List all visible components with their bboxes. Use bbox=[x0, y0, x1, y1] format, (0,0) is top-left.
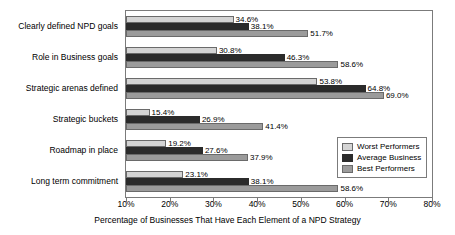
bar-row: 46.3% bbox=[126, 54, 432, 61]
category-label: Clearly defined NPD goals bbox=[0, 21, 118, 31]
bar bbox=[126, 116, 200, 123]
npd-strategy-bar-chart: Clearly defined NPD goalsRole in Busines… bbox=[0, 0, 455, 235]
bar-row: 41.4% bbox=[126, 123, 432, 130]
bar-group: 30.8%46.3%58.6% bbox=[126, 42, 432, 73]
bar-value-label: 37.9% bbox=[250, 153, 273, 162]
x-tick-mark bbox=[257, 198, 258, 202]
bar-value-label: 58.6% bbox=[340, 184, 363, 193]
category-label: Roadmap in place bbox=[0, 145, 118, 155]
bar-value-label: 69.0% bbox=[386, 91, 409, 100]
legend-label-average: Average Business bbox=[357, 153, 421, 162]
bar bbox=[126, 92, 384, 99]
bar-row: 34.6% bbox=[126, 16, 432, 23]
x-tick-mark bbox=[432, 198, 433, 202]
bar-row: 30.8% bbox=[126, 47, 432, 54]
category-axis-labels: Clearly defined NPD goalsRole in Busines… bbox=[0, 10, 122, 198]
x-tick-mark bbox=[301, 198, 302, 202]
bar-group: 34.6%38.1%51.7% bbox=[126, 11, 432, 42]
legend-swatch-best-icon bbox=[342, 165, 353, 173]
legend-item-average: Average Business bbox=[342, 152, 421, 163]
bar bbox=[126, 78, 317, 85]
bar bbox=[126, 140, 166, 147]
legend-item-best: Best Performers bbox=[342, 163, 421, 174]
category-label: Strategic arenas defined bbox=[0, 83, 118, 93]
bar bbox=[126, 154, 248, 161]
bar-value-label: 58.6% bbox=[340, 60, 363, 69]
bar bbox=[126, 61, 338, 68]
bar bbox=[126, 85, 366, 92]
legend-label-best: Best Performers bbox=[357, 164, 415, 173]
x-tick-mark bbox=[126, 198, 127, 202]
bar bbox=[126, 178, 249, 185]
bar-group: 15.4%26.9%41.4% bbox=[126, 104, 432, 135]
x-tick-mark bbox=[170, 198, 171, 202]
bar-value-label: 51.7% bbox=[310, 29, 333, 38]
bar-group: 53.8%64.8%69.0% bbox=[126, 73, 432, 104]
bar bbox=[126, 54, 285, 61]
bar bbox=[126, 47, 217, 54]
bar-row: 58.6% bbox=[126, 61, 432, 68]
category-label: Long term commitment bbox=[0, 176, 118, 186]
x-tick-mark bbox=[345, 198, 346, 202]
x-axis-tick-labels: 10%20%30%40%50%60%70%80% bbox=[0, 199, 455, 213]
bar bbox=[126, 30, 308, 37]
bar-row: 38.1% bbox=[126, 23, 432, 30]
bar bbox=[126, 147, 203, 154]
bar bbox=[126, 185, 338, 192]
legend-swatch-average-icon bbox=[342, 154, 353, 162]
bar-row: 15.4% bbox=[126, 109, 432, 116]
bar bbox=[126, 109, 150, 116]
category-label: Strategic buckets bbox=[0, 114, 118, 124]
bar-row: 58.6% bbox=[126, 185, 432, 192]
bar-value-label: 41.4% bbox=[265, 122, 288, 131]
x-tick-mark bbox=[213, 198, 214, 202]
legend-swatch-worst-icon bbox=[342, 143, 353, 151]
category-label: Role in Business goals bbox=[0, 52, 118, 62]
bar bbox=[126, 171, 183, 178]
bar bbox=[126, 23, 249, 30]
legend: Worst Performers Average Business Best P… bbox=[337, 137, 427, 178]
x-axis-title: Percentage of Businesses That Have Each … bbox=[0, 215, 455, 225]
bar-row: 38.1% bbox=[126, 178, 432, 185]
bar bbox=[126, 16, 234, 23]
legend-label-worst: Worst Performers bbox=[357, 142, 420, 151]
bar-row: 69.0% bbox=[126, 92, 432, 99]
bar bbox=[126, 123, 263, 130]
x-tick-mark bbox=[388, 198, 389, 202]
legend-item-worst: Worst Performers bbox=[342, 141, 421, 152]
bar-row: 51.7% bbox=[126, 30, 432, 37]
